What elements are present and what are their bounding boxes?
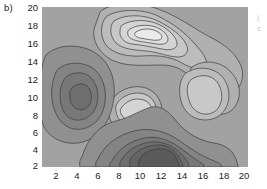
contour-bands bbox=[42, 7, 248, 167]
y-tick-label: 10 bbox=[4, 93, 38, 103]
y-tick-label: 14 bbox=[4, 57, 38, 67]
x-tick-label: 20 bbox=[231, 170, 257, 181]
contour-plot bbox=[42, 7, 248, 167]
plot-area bbox=[42, 7, 248, 167]
y-tick-label: 16 bbox=[4, 39, 38, 49]
y-axis: 20 18 16 14 12 10 8 6 4 2 bbox=[0, 0, 38, 189]
y-tick-label: 12 bbox=[4, 75, 38, 85]
x-axis: 2 4 6 8 10 12 14 16 18 20 bbox=[0, 170, 267, 186]
y-tick-label: 6 bbox=[4, 128, 38, 138]
y-tick-label: 18 bbox=[4, 21, 38, 31]
contour-figure: b) 20 18 16 14 12 10 8 6 4 2 bbox=[0, 0, 267, 189]
fragment-line-1: | bbox=[257, 12, 267, 23]
y-tick-label: 20 bbox=[4, 3, 38, 13]
contour-band-left-4 bbox=[70, 84, 92, 110]
cropped-neighbour-fragment: | c bbox=[257, 12, 267, 38]
y-tick-label: 8 bbox=[4, 111, 38, 121]
fragment-line-2: c bbox=[257, 23, 267, 34]
y-tick-label: 4 bbox=[4, 145, 38, 155]
